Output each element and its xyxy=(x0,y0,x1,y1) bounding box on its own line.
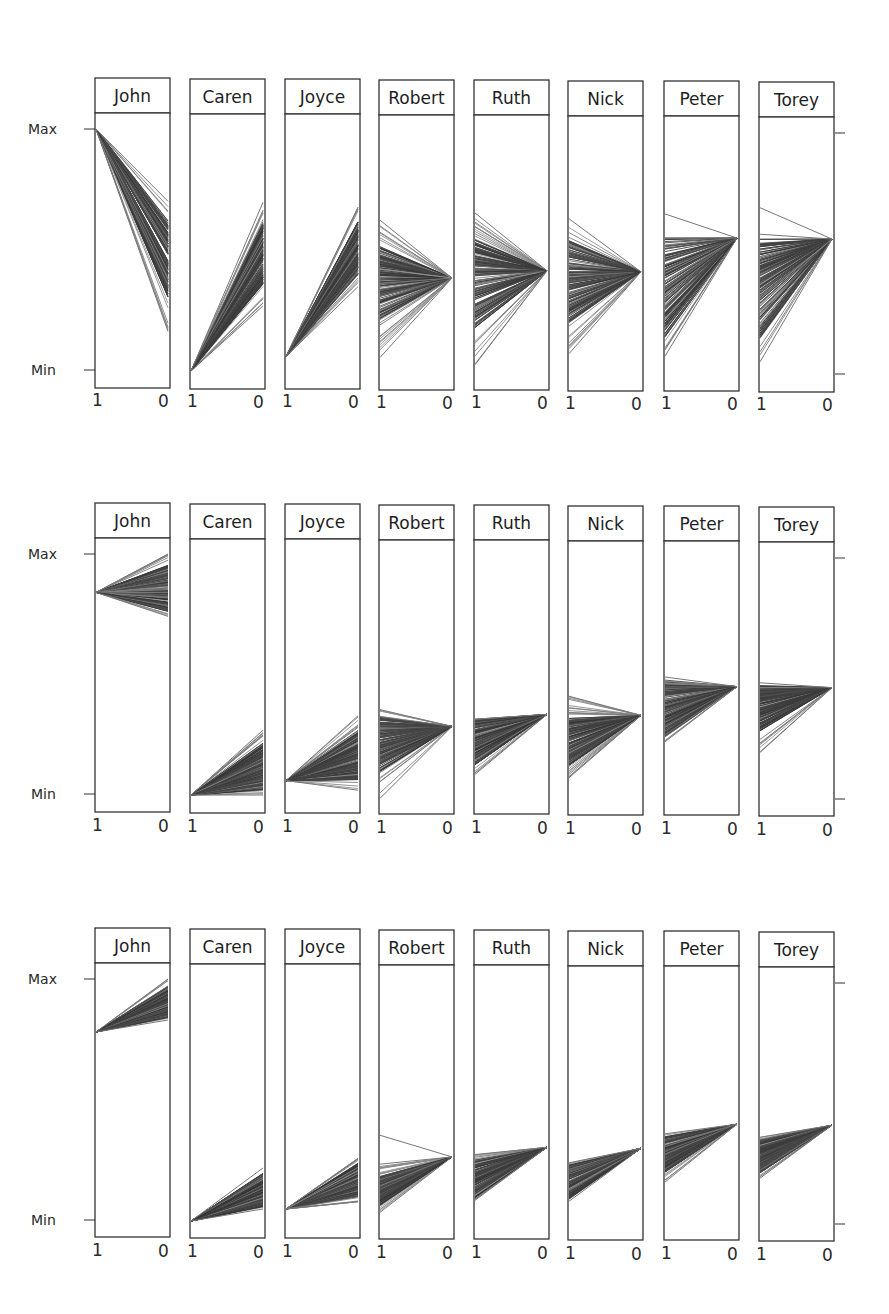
x-tick-label-0: 0 xyxy=(537,1243,548,1263)
panel-title: Torey xyxy=(773,940,819,960)
panel-title: Robert xyxy=(388,938,445,958)
panel-caren: Caren10 xyxy=(187,929,265,1262)
x-tick-label-1: 1 xyxy=(471,1242,482,1262)
x-tick-label-1: 1 xyxy=(756,819,767,839)
parallel-coordinates-figure: MaxMinJohn10Caren10Joyce10Robert10Ruth10… xyxy=(0,0,889,1314)
x-tick-label-1: 1 xyxy=(471,392,482,412)
x-tick-label-0: 0 xyxy=(631,819,642,839)
x-tick-label-0: 0 xyxy=(727,819,738,839)
x-tick-label-0: 0 xyxy=(253,392,264,412)
y-axis-label-max: Max xyxy=(28,546,57,562)
panel-john: John10 xyxy=(92,928,170,1261)
x-tick-label-0: 0 xyxy=(253,817,264,837)
x-tick-label-0: 0 xyxy=(253,1242,264,1262)
x-tick-label-1: 1 xyxy=(376,1242,387,1262)
x-tick-label-0: 0 xyxy=(822,820,833,840)
panel-robert: Robert10 xyxy=(376,80,454,413)
panel-john: John10 xyxy=(92,503,170,836)
chart-row-3: MaxMinJohn10Caren10Joyce10Robert10Ruth10… xyxy=(28,928,845,1265)
chart-row-1: MaxMinJohn10Caren10Joyce10Robert10Ruth10… xyxy=(28,78,845,415)
x-tick-label-1: 1 xyxy=(187,391,198,411)
x-tick-label-1: 1 xyxy=(282,391,293,411)
panel-title: John xyxy=(113,936,151,956)
panel-ruth: Ruth10 xyxy=(471,505,549,838)
panel-plot-area xyxy=(474,540,549,814)
panel-torey: Torey10 xyxy=(756,932,834,1265)
panel-title: Ruth xyxy=(492,88,531,108)
y-axis-label-max: Max xyxy=(28,971,57,987)
panel-title: Torey xyxy=(773,90,819,110)
y-axis-label-min: Min xyxy=(31,1212,56,1228)
x-tick-label-0: 0 xyxy=(537,393,548,413)
x-tick-label-0: 0 xyxy=(442,1243,453,1263)
x-tick-label-0: 0 xyxy=(158,1241,169,1261)
x-tick-label-0: 0 xyxy=(442,818,453,838)
panel-nick: Nick10 xyxy=(565,506,643,839)
x-tick-label-0: 0 xyxy=(537,818,548,838)
x-tick-label-1: 1 xyxy=(565,818,576,838)
x-tick-label-1: 1 xyxy=(471,817,482,837)
panel-joyce: Joyce10 xyxy=(282,504,360,837)
x-tick-label-1: 1 xyxy=(376,817,387,837)
panel-caren: Caren10 xyxy=(187,504,265,837)
x-tick-label-1: 1 xyxy=(565,1243,576,1263)
panel-torey: Torey10 xyxy=(756,82,834,415)
panel-title: Torey xyxy=(773,515,819,535)
x-tick-label-0: 0 xyxy=(631,394,642,414)
x-tick-label-0: 0 xyxy=(822,395,833,415)
panel-peter: Peter10 xyxy=(661,81,739,414)
panel-nick: Nick10 xyxy=(565,81,643,414)
x-tick-label-1: 1 xyxy=(756,394,767,414)
x-tick-label-1: 1 xyxy=(661,1243,672,1263)
panel-john: John10 xyxy=(92,78,170,411)
x-tick-label-1: 1 xyxy=(282,1241,293,1261)
x-tick-label-0: 0 xyxy=(822,1245,833,1265)
x-tick-label-1: 1 xyxy=(376,392,387,412)
chart-row-2: MaxMinJohn10Caren10Joyce10Robert10Ruth10… xyxy=(28,503,845,840)
panel-torey: Torey10 xyxy=(756,507,834,840)
panel-title: Caren xyxy=(202,87,252,107)
panel-title: John xyxy=(113,511,151,531)
panel-title: Peter xyxy=(679,514,723,534)
panel-plot-area xyxy=(664,966,739,1240)
panel-plot-area xyxy=(568,966,643,1240)
panel-title: Ruth xyxy=(492,513,531,533)
x-tick-label-1: 1 xyxy=(92,1240,103,1260)
x-tick-label-1: 1 xyxy=(187,1241,198,1261)
x-tick-label-0: 0 xyxy=(727,1244,738,1264)
panel-title: Caren xyxy=(202,937,252,957)
panel-title: Robert xyxy=(388,88,445,108)
x-tick-label-0: 0 xyxy=(727,394,738,414)
x-tick-label-1: 1 xyxy=(282,816,293,836)
x-tick-label-0: 0 xyxy=(631,1244,642,1264)
y-axis-label-max: Max xyxy=(28,121,57,137)
panel-title: Peter xyxy=(679,939,723,959)
y-axis-label-min: Min xyxy=(31,786,56,802)
panel-title: Joyce xyxy=(299,512,345,532)
panel-nick: Nick10 xyxy=(565,931,643,1264)
panel-joyce: Joyce10 xyxy=(282,79,360,412)
panel-title: Nick xyxy=(587,514,624,534)
panel-plot-area xyxy=(759,542,834,816)
x-tick-label-1: 1 xyxy=(187,816,198,836)
x-tick-label-1: 1 xyxy=(661,818,672,838)
x-tick-label-1: 1 xyxy=(92,390,103,410)
x-tick-label-0: 0 xyxy=(348,817,359,837)
x-tick-label-0: 0 xyxy=(442,393,453,413)
panel-robert: Robert10 xyxy=(376,505,454,838)
panel-ruth: Ruth10 xyxy=(471,930,549,1263)
panel-title: Robert xyxy=(388,513,445,533)
x-tick-label-1: 1 xyxy=(92,815,103,835)
panel-plot-area xyxy=(474,965,549,1239)
x-tick-label-1: 1 xyxy=(565,393,576,413)
panel-title: Ruth xyxy=(492,938,531,958)
panel-plot-area xyxy=(568,541,643,815)
panel-title: Joyce xyxy=(299,87,345,107)
x-tick-label-0: 0 xyxy=(348,1242,359,1262)
x-tick-label-1: 1 xyxy=(756,1244,767,1264)
panel-title: Nick xyxy=(587,939,624,959)
panel-plot-area xyxy=(379,540,454,814)
panel-title: Peter xyxy=(679,89,723,109)
panel-peter: Peter10 xyxy=(661,506,739,839)
panel-title: Joyce xyxy=(299,937,345,957)
